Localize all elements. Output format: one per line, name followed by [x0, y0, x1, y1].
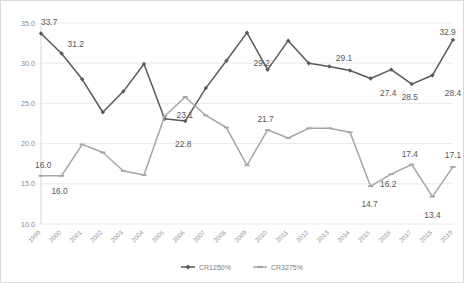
x-tick-label: 2011 — [274, 228, 289, 243]
data-label: 21.7 — [257, 114, 274, 124]
data-point-labels: 33.731.223.122.829.229.127.428.532.928.4… — [35, 17, 461, 219]
x-tick-label: 2015 — [356, 228, 371, 243]
x-tick-label: 2016 — [377, 228, 392, 243]
legend-item-label[interactable]: CR3275% — [271, 264, 303, 271]
x-tick-label: 2009 — [233, 228, 248, 243]
x-tick-label: 2007 — [192, 228, 207, 243]
x-tick-label: 2001 — [68, 228, 83, 243]
data-label: 14.7 — [361, 199, 378, 209]
data-label: 29.2 — [254, 58, 271, 68]
x-tick-label: 2000 — [47, 228, 62, 243]
chart-container: 10.015.020.025.030.035.0 199920002001200… — [0, 0, 464, 283]
legend-item-label[interactable]: CR1250% — [199, 264, 231, 271]
data-label: 22.8 — [175, 139, 192, 149]
data-label: 16.0 — [35, 160, 52, 170]
x-axis-tick-labels: 1999200020012002200320042005200620072008… — [27, 228, 454, 243]
y-tick-label: 25.0 — [21, 99, 35, 108]
y-tick-label: 20.0 — [21, 139, 35, 148]
x-tick-label: 2017 — [398, 228, 413, 243]
x-tick-label: 2013 — [315, 228, 330, 243]
data-label: 17.4 — [402, 149, 419, 159]
x-tick-label: 1999 — [27, 228, 42, 243]
data-label: 29.1 — [336, 53, 353, 63]
data-label: 32.9 — [439, 27, 456, 37]
series-line-1 — [41, 33, 453, 121]
data-label: 28.5 — [402, 92, 419, 102]
x-tick-label: 2006 — [171, 228, 186, 243]
x-tick-label: 2019 — [439, 228, 454, 243]
y-tick-label: 15.0 — [21, 179, 35, 188]
x-tick-label: 2012 — [295, 228, 310, 243]
x-tick-label: 2014 — [336, 228, 351, 243]
x-tick-label: 2003 — [109, 228, 124, 243]
data-point-marker — [368, 76, 372, 80]
data-label: 16.0 — [51, 186, 68, 196]
data-point-marker — [348, 68, 352, 72]
y-tick-label: 10.0 — [21, 220, 35, 229]
chart-legend: CR1250%CR3275% — [181, 264, 303, 271]
x-tick-label: 2002 — [89, 228, 104, 243]
legend-swatch-marker — [186, 265, 191, 270]
data-label: 33.7 — [41, 17, 58, 27]
data-label: 31.2 — [68, 39, 85, 49]
gridlines — [41, 23, 453, 224]
x-tick-label: 2004 — [130, 228, 145, 243]
x-tick-label: 2018 — [418, 228, 433, 243]
line-chart-plot: 10.015.020.025.030.035.0 199920002001200… — [1, 1, 464, 283]
data-point-marker — [327, 64, 331, 68]
data-label: 13.4 — [424, 210, 441, 220]
data-label: 16.2 — [380, 179, 397, 189]
data-label: 27.4 — [380, 88, 397, 98]
y-axis-tick-labels: 10.015.020.025.030.035.0 — [21, 19, 35, 229]
x-tick-label: 2010 — [253, 228, 268, 243]
data-label: 23.1 — [177, 110, 194, 120]
data-label: 17.1 — [445, 150, 462, 160]
data-label: 28.4 — [445, 88, 462, 98]
y-tick-label: 30.0 — [21, 59, 35, 68]
x-tick-label: 2008 — [212, 228, 227, 243]
y-tick-label: 35.0 — [21, 19, 35, 28]
x-tick-label: 2005 — [150, 228, 165, 243]
series-lines — [38, 30, 455, 196]
